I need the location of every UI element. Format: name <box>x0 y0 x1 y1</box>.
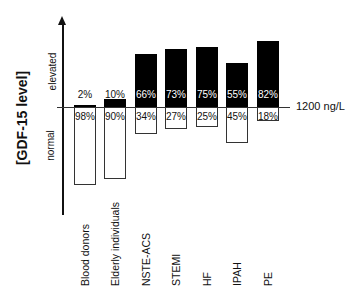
category-label: Elderly individuals <box>109 202 121 286</box>
y-region-elevated: elevated <box>47 47 58 97</box>
label-normal: 18% <box>256 111 280 122</box>
category-label: HF <box>201 272 213 286</box>
bar-elevated <box>104 99 126 107</box>
label-elevated: 73% <box>164 89 188 100</box>
category-label: STEMI <box>170 254 182 286</box>
label-normal: 34% <box>134 111 158 122</box>
label-elevated: 55% <box>225 89 249 100</box>
label-normal: 25% <box>195 111 219 122</box>
threshold-label: 1200 ng/L <box>296 100 345 112</box>
label-normal: 90% <box>103 111 127 122</box>
label-elevated: 82% <box>256 89 280 100</box>
label-elevated: 66% <box>134 89 158 100</box>
category-label: Blood donors <box>79 224 91 286</box>
category-label: PE <box>262 272 274 286</box>
label-elevated: 10% <box>103 89 127 100</box>
y-axis-title: [GDF-15 level] <box>14 63 30 173</box>
label-elevated: 75% <box>195 89 219 100</box>
label-normal: 98% <box>73 111 97 122</box>
category-label: NSTE-ACS <box>140 233 152 286</box>
label-normal: 45% <box>225 111 249 122</box>
category-label: IPAH <box>231 262 243 286</box>
y-axis <box>62 22 64 215</box>
bar-elevated <box>226 63 248 107</box>
label-elevated: 2% <box>73 89 97 100</box>
label-normal: 27% <box>164 111 188 122</box>
y-region-normal: normal <box>45 126 56 166</box>
